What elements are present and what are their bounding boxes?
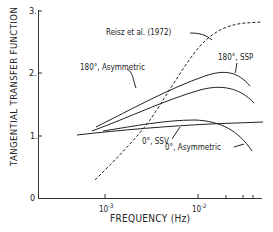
- leader-0-asym: [234, 144, 244, 147]
- label-180-ssp: 180°, SSP: [218, 53, 254, 62]
- series-180-asymmetric: [92, 87, 254, 131]
- y-tick-2: 2.: [29, 68, 37, 78]
- leader-0-ssv: [172, 127, 180, 139]
- tangential-transfer-chart: 3. 2. 1. 0 10-3 10-2 FREQUENCY (Hz) TANG…: [0, 0, 273, 232]
- series-180-ssp: [96, 72, 250, 127]
- axes: [38, 10, 262, 199]
- leader-180-ssp: [235, 63, 237, 73]
- label-reisz: Reisz et al. (1972): [106, 28, 172, 37]
- leader-reisz: [190, 33, 212, 40]
- y-tick-0: 0: [30, 193, 35, 203]
- y-axis-title: TANGENTIAL TRANSFER FUNCTION: [8, 7, 19, 167]
- series-reisz-dashed: [95, 22, 262, 180]
- label-0-asymmetric: 0°, Asymmetric: [165, 143, 221, 152]
- x-axis-title: FREQUENCY (Hz): [110, 213, 190, 224]
- y-tick-3: 3.: [29, 6, 37, 16]
- y-tick-1: 1.: [30, 131, 38, 141]
- x-tick-1e-2: 10-2: [192, 202, 207, 214]
- label-180-asymmetric: 180°, Asymmetric: [80, 63, 145, 72]
